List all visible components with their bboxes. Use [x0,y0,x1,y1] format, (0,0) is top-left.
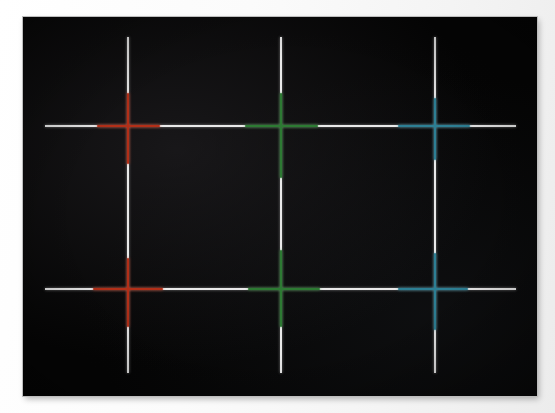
crosshair-green-top-vertical [280,93,282,178]
crosshair-red-top-vertical [127,93,129,164]
crosshair-blue-top-horizontal [398,125,470,127]
crosshair-green-top-horizontal [245,125,318,127]
crosshair-green-bottom-horizontal [248,288,320,290]
crosshair-blue-bottom-vertical [434,253,436,330]
screenshot-stage [0,0,555,413]
black-display-panel [23,17,537,396]
crosshair-red-bottom-horizontal [93,288,163,290]
crosshair-red-bottom-vertical [127,258,129,327]
crosshair-blue-top-vertical [434,98,436,160]
crosshair-red-top-horizontal [97,125,160,127]
crosshair-blue-bottom-horizontal [398,288,468,290]
colored-crosshair-layer [23,17,537,396]
